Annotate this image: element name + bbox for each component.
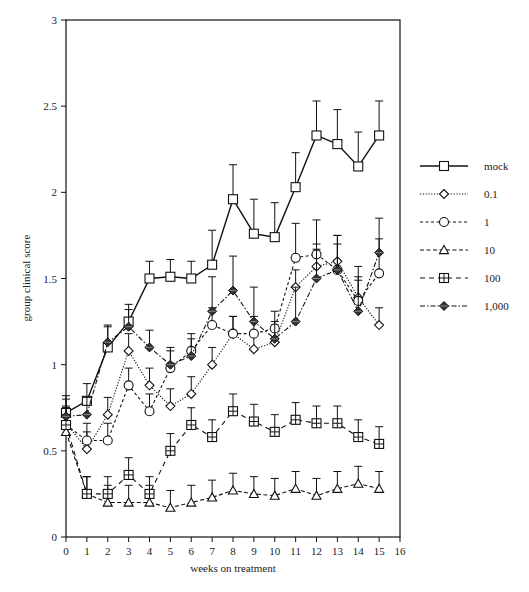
- data-point: [270, 233, 279, 242]
- data-point: [312, 491, 321, 499]
- data-point: [124, 346, 133, 355]
- series-path: [66, 261, 379, 449]
- data-point: [187, 274, 196, 283]
- x-axis-label: weeks on treatment: [190, 562, 276, 574]
- x-tick-label: 4: [147, 545, 153, 557]
- data-point: [333, 140, 342, 149]
- y-tick-label: 1.5: [43, 273, 57, 285]
- legend-label: 0.1: [484, 188, 498, 200]
- data-point: [229, 486, 238, 494]
- y-tick-label: 0: [52, 531, 58, 543]
- data-point: [229, 195, 238, 204]
- data-point: [103, 410, 112, 419]
- legend-label: 1: [484, 216, 490, 228]
- legend-marker: [440, 218, 449, 227]
- x-tick-label: 11: [290, 545, 301, 557]
- x-tick-label: 10: [269, 545, 281, 557]
- data-point: [166, 272, 175, 281]
- data-point: [103, 436, 112, 445]
- y-tick-label: 3: [52, 14, 58, 26]
- x-tick-label: 14: [353, 545, 365, 557]
- y-tick-label: 2.5: [43, 100, 57, 112]
- legend-item: 1: [420, 216, 490, 228]
- x-tick-label: 15: [374, 545, 386, 557]
- x-tick-label: 7: [209, 545, 215, 557]
- series-1000-line: [62, 218, 384, 421]
- x-tick-label: 0: [63, 545, 69, 557]
- legend-item: 1,000: [420, 300, 509, 312]
- data-point: [145, 274, 154, 283]
- series-path: [66, 253, 379, 417]
- data-point: [82, 436, 91, 445]
- legend-marker: [440, 162, 449, 171]
- series-path: [66, 135, 379, 412]
- legend-item: 0.1: [420, 188, 498, 200]
- data-point: [187, 389, 196, 398]
- legend-label: 1,000: [484, 300, 509, 312]
- legend: mock0.11101001,000: [420, 160, 509, 312]
- data-point: [208, 493, 217, 501]
- data-point: [249, 329, 258, 338]
- data-point: [145, 407, 154, 416]
- x-tick-label: 8: [230, 545, 236, 557]
- data-point: [312, 131, 321, 140]
- series-1-line: [62, 220, 384, 445]
- legend-label: mock: [484, 160, 509, 172]
- data-point: [375, 321, 384, 330]
- series-path: [66, 432, 379, 508]
- x-tick-label: 6: [189, 545, 195, 557]
- data-point: [208, 360, 217, 369]
- series-path: [66, 254, 379, 440]
- legend-marker: [440, 190, 449, 199]
- y-tick-label: 1: [52, 359, 58, 371]
- data-point: [166, 402, 175, 411]
- legend-item: 100: [420, 272, 501, 284]
- legend-label: 10: [484, 244, 496, 256]
- y-axis-label: group clinical score: [20, 235, 32, 322]
- data-point: [229, 329, 238, 338]
- x-tick-label: 1: [84, 545, 90, 557]
- y-tick-label: 0.5: [43, 445, 57, 457]
- legend-item: mock: [420, 160, 509, 172]
- data-point: [375, 131, 384, 140]
- y-tick-label: 2: [52, 186, 58, 198]
- data-point: [291, 484, 300, 492]
- data-point: [124, 381, 133, 390]
- x-tick-label: 16: [395, 545, 407, 557]
- x-tick-label: 12: [311, 545, 322, 557]
- data-point: [208, 260, 217, 269]
- data-point: [354, 162, 363, 171]
- data-point: [291, 183, 300, 192]
- x-tick-label: 9: [251, 545, 257, 557]
- series-path: [66, 411, 379, 494]
- data-point: [249, 345, 258, 354]
- x-tick-label: 3: [126, 545, 132, 557]
- data-point: [166, 503, 175, 511]
- data-point: [208, 321, 217, 330]
- x-tick-label: 2: [105, 545, 111, 557]
- data-point: [375, 269, 384, 278]
- legend-label: 100: [484, 272, 501, 284]
- x-tick-label: 5: [168, 545, 174, 557]
- data-point: [354, 479, 363, 487]
- x-tick-label: 13: [332, 545, 344, 557]
- data-point: [249, 229, 258, 238]
- line-chart: 01234567891011121314151600.511.522.53 mo…: [0, 0, 529, 592]
- series-group: [62, 101, 384, 511]
- data-point: [291, 253, 300, 262]
- legend-item: 10: [420, 244, 496, 256]
